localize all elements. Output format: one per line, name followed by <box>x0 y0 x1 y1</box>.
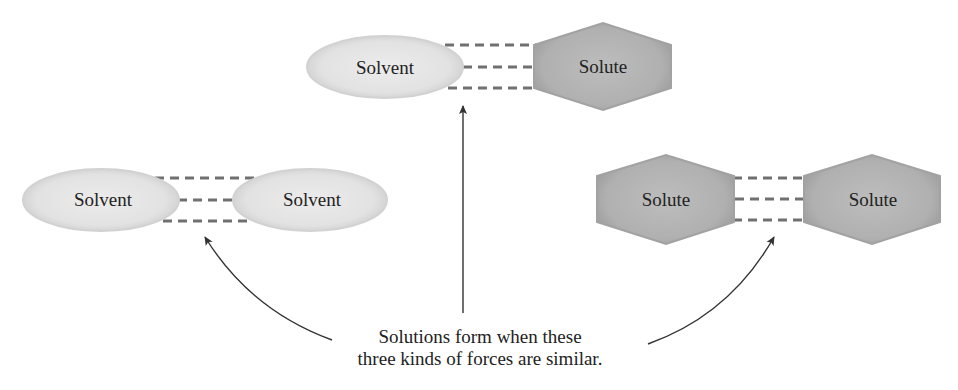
caption-line-2: three kinds of forces are similar. <box>358 348 603 370</box>
arrow-to-right-pair <box>648 237 774 344</box>
right-solvent-label: Solvent <box>283 189 341 211</box>
caption: Solutions form when these three kinds of… <box>358 326 603 370</box>
top-solvent-label: Solvent <box>356 57 414 79</box>
dashed-interaction-lines <box>733 178 805 220</box>
caption-line-1: Solutions form when these <box>358 326 603 348</box>
top-solute-label: Solute <box>579 56 628 78</box>
left-solute-label: Solute <box>642 189 691 211</box>
solution-forces-diagram: Solvent Solute Solvent Solvent Solute So… <box>0 0 958 390</box>
left-solvent-label: Solvent <box>74 189 132 211</box>
right-solute-label: Solute <box>849 189 898 211</box>
arrow-to-left-pair <box>205 237 332 340</box>
